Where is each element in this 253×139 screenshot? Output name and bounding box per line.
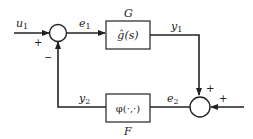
summing-junction-1	[50, 25, 67, 42]
summing-junction-2	[190, 97, 210, 117]
sum2-top-plus-sign: +	[206, 83, 214, 94]
e1-label: e1	[79, 17, 91, 31]
input-u1-label: u1	[16, 17, 28, 31]
block-g-content: ĝ(s)	[117, 29, 138, 42]
e2-label: e2	[167, 92, 179, 106]
y1-path	[150, 35, 199, 95]
block-diagram: u1 + − e1 G ĝ(s) y1 + + e2 φ(·,·) F y2	[0, 0, 253, 139]
block-f-name: F	[123, 125, 132, 138]
y2-label: y2	[78, 92, 90, 106]
sum1-plus-sign: +	[34, 37, 42, 48]
block-g-name: G	[124, 7, 133, 20]
sum1-minus-sign: −	[44, 52, 52, 63]
block-f-content: φ(·,·)	[116, 103, 140, 114]
y1-label: y1	[170, 20, 182, 34]
sum2-right-plus-sign: +	[219, 93, 227, 104]
